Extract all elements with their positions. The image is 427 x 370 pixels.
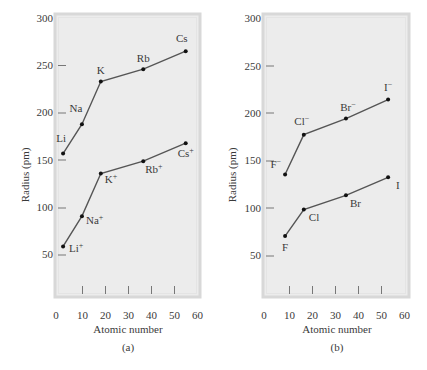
svg-text:300: 300 bbox=[245, 12, 262, 24]
svg-text:0: 0 bbox=[53, 309, 59, 321]
panel-caption-a: (a) bbox=[122, 341, 135, 354]
plot-area-a bbox=[55, 14, 200, 297]
y-tick-labels-b: 300 250 200 150 100 50 bbox=[245, 12, 262, 261]
x-axis-label-a: Atomic number bbox=[93, 323, 163, 335]
svg-text:100: 100 bbox=[245, 202, 262, 214]
svg-text:20: 20 bbox=[100, 309, 112, 321]
svg-text:50: 50 bbox=[169, 309, 181, 321]
svg-text:250: 250 bbox=[245, 60, 262, 72]
svg-text:30: 30 bbox=[330, 309, 342, 321]
x-tick-labels-a: 0 10 20 30 40 50 60 bbox=[53, 309, 203, 321]
y-axis-label-a: Radius (pm) bbox=[19, 147, 32, 202]
svg-text:200: 200 bbox=[245, 107, 262, 119]
y-tick-50: 50 bbox=[42, 248, 54, 260]
svg-text:20: 20 bbox=[307, 309, 319, 321]
svg-text:150: 150 bbox=[245, 154, 262, 166]
x-tick-labels-b: 0 10 20 30 40 50 60 bbox=[261, 309, 410, 321]
y-tick-150: 150 bbox=[37, 154, 54, 166]
svg-text:50: 50 bbox=[250, 249, 262, 261]
svg-text:40: 40 bbox=[146, 309, 158, 321]
svg-text:60: 60 bbox=[399, 309, 411, 321]
plot-area-b bbox=[263, 14, 409, 297]
svg-text:30: 30 bbox=[123, 309, 135, 321]
x-axis-label-b: Atomic number bbox=[302, 323, 372, 335]
chart-panel-b: 300 250 200 150 100 50 0 10 20 30 40 50 … bbox=[214, 0, 427, 370]
svg-text:40: 40 bbox=[353, 309, 365, 321]
y-tick-300: 300 bbox=[37, 12, 54, 24]
y-tick-labels-a: 300 250 200 150 100 50 bbox=[37, 12, 54, 260]
svg-text:10: 10 bbox=[284, 309, 296, 321]
panel-caption-b: (b) bbox=[331, 341, 344, 354]
svg-text:60: 60 bbox=[192, 309, 204, 321]
svg-text:10: 10 bbox=[77, 309, 89, 321]
svg-text:50: 50 bbox=[376, 309, 388, 321]
y-tick-200: 200 bbox=[37, 106, 54, 118]
y-tick-100: 100 bbox=[37, 201, 54, 213]
y-tick-250: 250 bbox=[37, 59, 54, 71]
svg-text:0: 0 bbox=[261, 309, 267, 321]
chart-panel-a: 300 250 200 150 100 50 0 10 20 30 40 50 … bbox=[0, 0, 214, 370]
y-axis-label-b: Radius (pm) bbox=[226, 147, 239, 202]
